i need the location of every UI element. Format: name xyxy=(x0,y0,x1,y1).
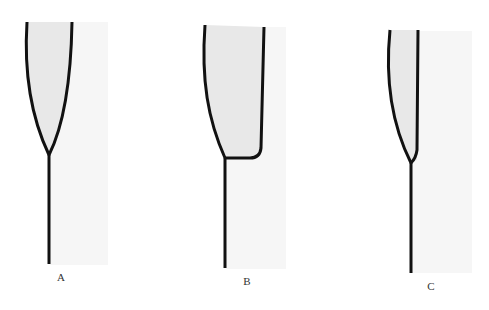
panel-c: C xyxy=(388,30,472,292)
panel-b-label: B xyxy=(243,275,250,287)
diagram-canvas: A B C xyxy=(0,0,489,310)
panel-b: B xyxy=(204,25,286,287)
panel-c-shading xyxy=(412,31,472,273)
panel-a: A xyxy=(26,22,108,283)
panel-c-label: C xyxy=(427,280,434,292)
panel-a-label: A xyxy=(57,271,65,283)
panel-b-fill xyxy=(204,25,264,158)
